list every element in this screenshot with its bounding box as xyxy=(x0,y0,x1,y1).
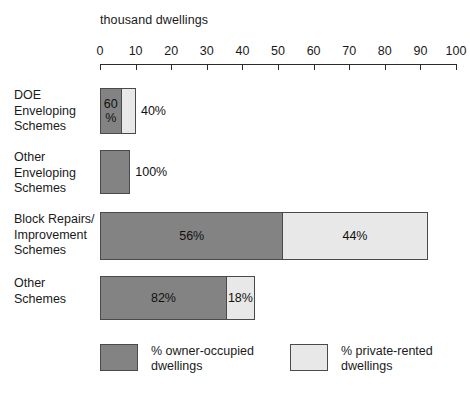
bar-segment[interactable]: 82% xyxy=(100,276,227,320)
chart-legend: % owner-occupied dwellings% private-rent… xyxy=(0,344,470,384)
x-axis-tick-labels: 0102030405060708090100 xyxy=(100,44,456,60)
x-axis-tick-mark xyxy=(314,64,315,70)
x-axis-tick-mark xyxy=(385,64,386,70)
x-axis-tick-label: 100 xyxy=(446,44,467,58)
chart-row: Other Schemes82%18% xyxy=(0,276,470,320)
row-label: Other Enveloping Schemes xyxy=(14,150,98,197)
x-axis-tick-label: 70 xyxy=(342,44,356,58)
x-axis-tick-label: 10 xyxy=(129,44,143,58)
bar-segment[interactable]: 18% xyxy=(227,276,255,320)
row-label: Block Repairs/ Improvement Schemes xyxy=(14,212,98,259)
axis-title: thousand dwellings xyxy=(100,13,208,27)
x-axis-tick-label: 0 xyxy=(97,44,104,58)
legend-item[interactable]: % owner-occupied dwellings xyxy=(100,344,254,374)
x-axis-tick-label: 50 xyxy=(271,44,285,58)
x-axis-tick-mark xyxy=(171,64,172,70)
x-axis-tick-mark xyxy=(278,64,279,70)
x-axis-tick-mark xyxy=(349,64,350,70)
chart-row: Block Repairs/ Improvement Schemes56%44% xyxy=(0,212,470,260)
legend-item[interactable]: % private-rented dwellings xyxy=(290,344,433,374)
chart-row: Other Enveloping Schemes100% xyxy=(0,150,470,194)
chart-row: DOE Enveloping Schemes60 %40% xyxy=(0,88,470,134)
x-axis-tick-mark xyxy=(207,64,208,70)
bar-segment[interactable]: 100% xyxy=(100,150,130,194)
bar-segment-value: 18% xyxy=(228,291,253,305)
bar-track: 100% xyxy=(100,150,130,194)
x-axis-tick-mark xyxy=(420,64,421,70)
row-label: Other Schemes xyxy=(14,276,98,307)
bar-segment[interactable]: 60 % xyxy=(100,88,122,134)
legend-label: % private-rented dwellings xyxy=(341,344,433,374)
bar-segment-value: 100% xyxy=(135,165,167,179)
x-axis-tick-label: 90 xyxy=(413,44,427,58)
x-axis-tick-mark xyxy=(242,64,243,70)
x-axis-tick-mark xyxy=(456,64,457,70)
bar-segment[interactable]: 56% xyxy=(100,212,283,260)
x-axis-tick-label: 60 xyxy=(307,44,321,58)
legend-swatch xyxy=(290,344,328,371)
x-axis-tick-mark xyxy=(100,64,101,70)
bar-segment-value: 82% xyxy=(151,291,176,305)
bar-track: 56%44% xyxy=(100,212,428,260)
bar-segment[interactable]: 40% xyxy=(122,88,136,134)
legend-label: % owner-occupied dwellings xyxy=(151,344,254,374)
x-axis-tick-mark xyxy=(136,64,137,70)
x-axis-tick-label: 40 xyxy=(235,44,249,58)
bar-track: 60 %40% xyxy=(100,88,136,134)
stacked-bar-chart: thousand dwellings 010203040506070809010… xyxy=(0,0,470,404)
x-axis-tick-label: 80 xyxy=(378,44,392,58)
legend-swatch xyxy=(100,344,138,371)
row-label: DOE Enveloping Schemes xyxy=(14,88,98,135)
x-axis-tick-label: 20 xyxy=(164,44,178,58)
bar-segment-value: 56% xyxy=(179,229,204,243)
bar-segment[interactable]: 44% xyxy=(283,212,427,260)
bar-segment-value: 60 % xyxy=(104,97,118,125)
bar-track: 82%18% xyxy=(100,276,255,320)
x-axis-tick-label: 30 xyxy=(200,44,214,58)
x-axis: 0102030405060708090100 xyxy=(100,44,456,70)
bar-segment-value: 44% xyxy=(342,229,367,243)
bar-segment-value: 40% xyxy=(141,104,166,118)
